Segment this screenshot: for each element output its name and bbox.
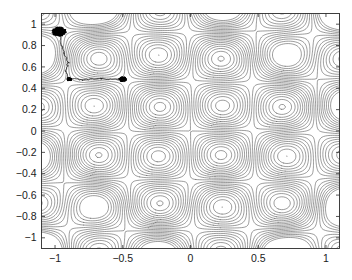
y-tick-label: 0 <box>31 125 37 137</box>
x-tick-label: 1 <box>323 252 329 264</box>
y-tick-label: 0.6 <box>22 61 37 73</box>
y-tick-label: 0.2 <box>22 103 37 115</box>
y-tick-label: −1 <box>25 231 37 243</box>
x-tick-label: 0.5 <box>251 252 266 264</box>
y-tick-label: 0.4 <box>22 82 37 94</box>
x-tick-label: −0.5 <box>112 252 133 264</box>
y-tick-label: −0.2 <box>16 146 37 158</box>
x-tick-label: 0 <box>188 252 194 264</box>
y-tick-label: −0.4 <box>16 167 37 179</box>
x-tick-label: −1 <box>49 252 61 264</box>
y-tick-label: 0.8 <box>22 39 37 51</box>
y-tick-label: −0.8 <box>16 210 37 222</box>
plot-canvas: −1−0.500.51 10.80.60.40.20−0.2−0.4−0.6−0… <box>0 0 352 280</box>
y-tick-label: 1 <box>31 18 37 30</box>
y-tick-label: −0.6 <box>16 189 37 201</box>
x-axis-tick-labels: −1−0.500.51 <box>49 252 329 264</box>
y-axis-tick-labels: 10.80.60.40.20−0.2−0.4−0.6−0.8−1 <box>16 18 37 244</box>
contour-plot-figure: −1−0.500.51 10.80.60.40.20−0.2−0.4−0.6−0… <box>0 0 352 280</box>
